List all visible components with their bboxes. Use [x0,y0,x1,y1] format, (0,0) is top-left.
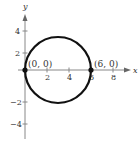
x-axis-arrow-icon [124,68,131,73]
x-axis-label: x [133,66,138,75]
point-six-zero [88,67,93,72]
y-tick-label-neg4: −4 [10,120,22,129]
x-tick-label-8: 8 [111,73,116,82]
x-tick-label-2: 2 [45,73,50,82]
x-tick-label-4: 4 [67,73,72,82]
y-axis-arrow-icon [23,14,28,21]
point-label-origin: (0, 0) [28,59,52,69]
point-origin [22,67,27,72]
y-tick-label-neg2: −2 [10,98,22,107]
point-label-six-zero: (6, 0) [94,59,118,69]
y-tick-label-4: 4 [15,27,20,36]
y-tick-label-2: 2 [15,49,20,58]
y-axis-label: y [22,2,28,11]
circle-plot: y x 2 4 6 8 4 2 −2 −4 (0, 0) (6, 0) [0,0,139,141]
